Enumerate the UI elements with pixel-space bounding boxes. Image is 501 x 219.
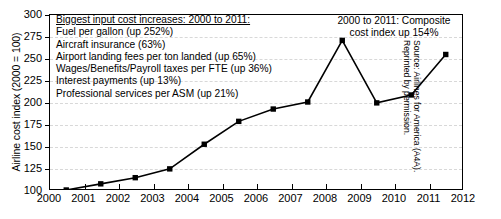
data-point-marker [98, 181, 103, 186]
cost-increase-item: Professional services per ASM (up 21%) [56, 88, 288, 100]
composite-index-annotation: 2000 to 2011: Composite cost index up 15… [330, 15, 458, 40]
data-point-marker [133, 175, 138, 180]
y-tick-label: 250 [8, 53, 42, 64]
data-point-marker [236, 119, 241, 124]
x-tick-label: 2012 [441, 192, 485, 204]
cost-increase-item: Aircraft insurance (63%) [56, 39, 288, 51]
cost-increase-item: Interest payments (up 13%) [56, 75, 288, 87]
cost-increase-item: Airport landing fees per ton landed (up … [56, 51, 288, 63]
data-point-marker [271, 106, 276, 111]
data-point-marker [202, 142, 207, 147]
source-credit: Source: Airlines for America (A4A). Repr… [402, 40, 421, 190]
cost-increase-item: Wages/Benefits/Payroll taxes per FTE (up… [56, 63, 288, 75]
y-axis-tick-labels: 100125150175200225250275300 [4, 0, 42, 219]
chart-figure: Airline cost index (2000 = 100) 10012515… [0, 0, 501, 219]
y-tick-label: 300 [8, 9, 42, 20]
x-axis-tick-labels: 2000200120022003200420052006200720082009… [49, 192, 463, 214]
y-tick-label: 125 [8, 163, 42, 174]
data-point-marker [167, 166, 172, 171]
cost-increase-item: Fuel per gallon (up 252%) [56, 26, 288, 38]
cost-increase-list-annotation: Biggest input cost increases: 2000 to 20… [56, 14, 288, 100]
composite-index-line-2: cost index up 154% [330, 27, 458, 39]
y-tick-label: 275 [8, 31, 42, 42]
y-tick-label: 200 [8, 97, 42, 108]
y-tick-label: 150 [8, 141, 42, 152]
y-tick-label: 175 [8, 119, 42, 130]
cost-increase-list-header: Biggest input cost increases: 2000 to 20… [56, 14, 288, 26]
data-point-marker [305, 99, 310, 104]
data-point-marker [374, 100, 379, 105]
composite-index-line-1: 2000 to 2011: Composite [330, 15, 458, 27]
y-tick-label: 225 [8, 75, 42, 86]
data-point-marker [443, 52, 448, 57]
data-point-marker [64, 187, 69, 190]
